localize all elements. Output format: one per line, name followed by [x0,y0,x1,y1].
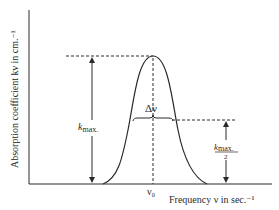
kmax-label: kmax. [78,121,98,134]
center-frequency-label: ν₀ [147,186,156,197]
x-axis-label: Frequency ν in sec.⁻¹ [169,194,255,205]
line-width-label: Δν [145,102,157,114]
y-axis-label: Absorption coefficient kν in cm.⁻¹ [9,30,20,168]
absorption-profile-diagram: Absorption coefficient kν in cm.⁻¹ Frequ… [0,0,279,210]
half-kmax-denominator: 2 [224,153,228,161]
absorption-profile-curve [103,56,207,184]
half-kmax-label: kmax. [214,142,234,153]
